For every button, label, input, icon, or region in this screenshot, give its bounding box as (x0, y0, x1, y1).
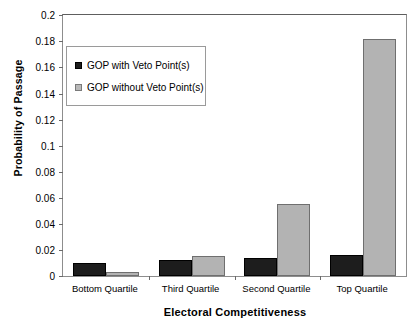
y-axis-tick-label: 0.18 (36, 36, 59, 47)
y-axis-tick-mark (59, 172, 63, 173)
y-axis-tick: 0.12 (36, 110, 63, 128)
y-axis-tick-label: 0.16 (36, 62, 59, 73)
x-axis-category-label: Second Quartile (234, 283, 320, 294)
y-axis-tick-mark (59, 15, 63, 16)
y-axis-tick: 0.14 (36, 84, 63, 102)
y-axis-tick-label: 0.2 (41, 10, 59, 21)
y-axis-tick-mark (59, 146, 63, 147)
y-axis-tick-label: 0.12 (36, 115, 59, 126)
x-axis-category-label: Third Quartile (148, 283, 234, 294)
y-axis-tick-label: 0.1 (41, 141, 59, 152)
y-axis-tick-label: 0 (49, 271, 59, 282)
y-axis-tick: 0.06 (36, 189, 63, 207)
y-axis-tick: 0 (49, 267, 63, 285)
bar (159, 260, 192, 276)
bar (277, 204, 310, 276)
y-axis-tick: 0.08 (36, 163, 63, 181)
x-axis-tick-mark (320, 276, 321, 280)
y-axis-tick-mark (59, 120, 63, 121)
legend-item: GOP without Veto Point(s) (75, 76, 199, 98)
y-axis-tick: 0.04 (36, 215, 63, 233)
y-axis-tick-mark (59, 67, 63, 68)
y-axis-tick-mark (59, 276, 63, 277)
bar (192, 256, 225, 276)
legend-swatch-icon (75, 84, 82, 91)
bar-chart: Probability of Passage 00.020.040.060.08… (0, 0, 418, 328)
y-axis-tick: 0.02 (36, 241, 63, 259)
y-axis-tick-label: 0.02 (36, 245, 59, 256)
bar (363, 39, 396, 277)
y-axis-tick-label: 0.06 (36, 193, 59, 204)
x-axis-tick-mark (235, 276, 236, 280)
y-axis-tick: 0.18 (36, 32, 63, 50)
bar (106, 272, 139, 276)
y-axis-title: Probability of Passage (12, 18, 24, 218)
bar (244, 258, 277, 276)
x-axis-tick-mark (149, 276, 150, 280)
y-axis-tick-label: 0.14 (36, 89, 59, 100)
y-axis-tick-mark (59, 94, 63, 95)
y-axis-tick: 0.16 (36, 58, 63, 76)
y-axis-tick-mark (59, 250, 63, 251)
chart-legend: GOP with Veto Point(s) GOP without Veto … (66, 46, 206, 106)
y-axis-tick-label: 0.08 (36, 167, 59, 178)
legend-swatch-icon (75, 62, 82, 69)
y-axis-tick-label: 0.04 (36, 219, 59, 230)
legend-label: GOP without Veto Point(s) (87, 82, 204, 93)
x-axis-category-label: Bottom Quartile (62, 283, 148, 294)
y-axis-tick-mark (59, 224, 63, 225)
legend-label: GOP with Veto Point(s) (87, 60, 190, 71)
y-axis-tick: 0.2 (41, 6, 63, 24)
x-axis-title: Electoral Competitiveness (62, 306, 408, 318)
x-axis-category-label: Top Quartile (319, 283, 405, 294)
bar (73, 263, 106, 276)
y-axis-tick-mark (59, 198, 63, 199)
bar (330, 255, 363, 276)
y-axis-tick-mark (59, 41, 63, 42)
y-axis-tick: 0.1 (41, 137, 63, 155)
legend-item: GOP with Veto Point(s) (75, 54, 199, 76)
